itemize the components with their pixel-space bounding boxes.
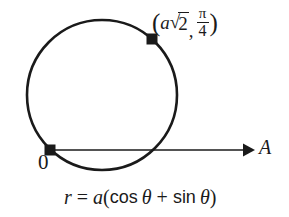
label-coefficient-a: a	[160, 13, 170, 32]
equation-plus: +	[157, 187, 168, 207]
radicand-value: 2	[178, 12, 189, 33]
origin-label: 0	[38, 152, 49, 173]
fraction-numerator-pi: π	[197, 6, 209, 22]
label-open-paren: (	[152, 13, 160, 33]
equation-close-paren: )	[210, 187, 217, 207]
axis-arrowhead-icon	[243, 144, 255, 157]
polar-curve-figure: 0 A ( a √ 2 , π 4 ) r = a ( cos θ + sin …	[0, 0, 289, 217]
equation-sin: sin	[173, 188, 196, 206]
equation-theta-1: θ	[142, 187, 152, 207]
equation-equals: =	[77, 187, 88, 207]
marked-point-label: ( a √ 2 , π 4 )	[152, 6, 218, 40]
curve-equation: r = a ( cos θ + sin θ )	[64, 187, 216, 207]
equation-r: r	[64, 187, 72, 207]
equation-theta-2: θ	[200, 187, 210, 207]
equation-cos: cos	[110, 188, 138, 206]
fraction-denominator-4: 4	[197, 23, 209, 40]
equation-open-paren: (	[103, 187, 110, 207]
label-comma: ,	[189, 21, 194, 40]
square-root-group: √ 2	[170, 12, 189, 33]
angle-fraction: π 4	[197, 6, 209, 40]
equation-a: a	[93, 187, 103, 207]
axis-label: A	[259, 137, 271, 157]
figure-canvas	[0, 0, 289, 217]
label-close-paren: )	[210, 13, 218, 33]
